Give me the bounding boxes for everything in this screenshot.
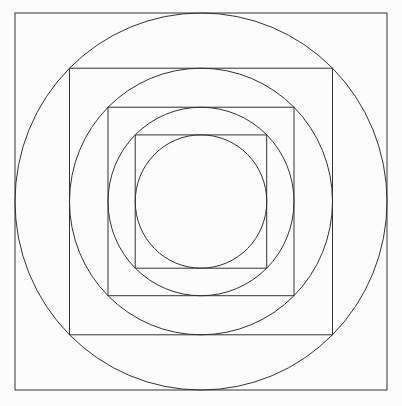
figure-svg — [0, 0, 402, 406]
second-circle — [70, 68, 333, 335]
second-square — [70, 68, 333, 335]
third-square — [108, 107, 294, 296]
outer-circle — [15, 13, 387, 390]
inner-square — [135, 135, 267, 268]
outer-square — [15, 13, 387, 390]
third-circle — [108, 107, 294, 296]
geometric-figure — [0, 0, 402, 406]
inner-circle — [135, 135, 267, 268]
